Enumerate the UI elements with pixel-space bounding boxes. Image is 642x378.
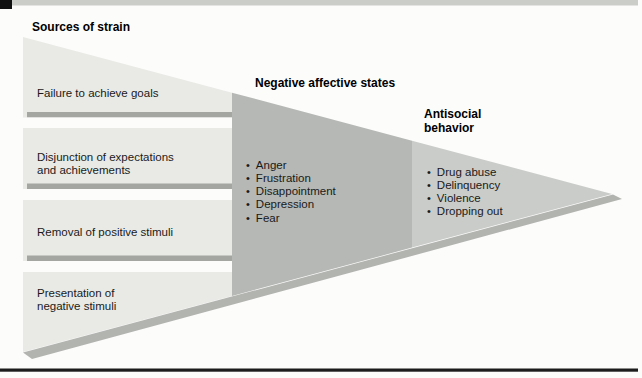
- bullet-icon: •: [246, 198, 250, 211]
- heading-line: Antisocial: [424, 108, 481, 122]
- list-item: • Drug abuse: [427, 166, 503, 179]
- strain-theory-figure: Sources of strain Negative affective sta…: [0, 0, 642, 378]
- box-separator-bar-1: [27, 112, 232, 118]
- label-line: negative stimuli: [37, 300, 116, 313]
- strain-box-removal-positive: Removal of positive stimuli: [37, 226, 173, 239]
- antisocial-behavior-heading: Antisocial behavior: [424, 108, 481, 135]
- list-item-label: Fear: [256, 212, 280, 225]
- bullet-icon: •: [246, 159, 250, 172]
- bullet-icon: •: [427, 205, 431, 218]
- list-item: • Violence: [427, 192, 503, 205]
- strain-box-failure-goals: Failure to achieve goals: [37, 87, 158, 100]
- box-separator-gap-3: [23, 261, 232, 272]
- box-separator-bar-2: [27, 184, 232, 190]
- bottom-rule: [0, 369, 638, 372]
- list-item-label: Dropping out: [437, 205, 503, 218]
- list-item: • Disappointment: [246, 185, 336, 198]
- list-item-label: Depression: [256, 198, 314, 211]
- list-item: • Frustration: [246, 172, 336, 185]
- list-item-label: Delinquency: [437, 179, 500, 192]
- label-line: Failure to achieve goals: [37, 87, 158, 100]
- bullet-icon: •: [427, 166, 431, 179]
- list-item-label: Drug abuse: [437, 166, 496, 179]
- top-rule-stripe: [0, 0, 638, 6]
- label-line: Removal of positive stimuli: [37, 226, 173, 239]
- label-line: Presentation of: [37, 287, 116, 300]
- label-line: and achievements: [37, 164, 174, 177]
- bullet-icon: •: [427, 179, 431, 192]
- strain-box-disjunction: Disjunction of expectations and achievem…: [37, 151, 174, 177]
- antisocial-behavior-list: • Drug abuse • Delinquency • Violence • …: [427, 166, 503, 219]
- list-item: • Delinquency: [427, 179, 503, 192]
- box-separator-bar-3: [27, 256, 232, 262]
- sources-of-strain-heading: Sources of strain: [32, 21, 130, 35]
- label-line: Disjunction of expectations: [37, 151, 174, 164]
- list-item: • Dropping out: [427, 205, 503, 218]
- box-separator-gap-2: [23, 189, 232, 200]
- top-corner-block: [0, 0, 12, 9]
- list-item: • Fear: [246, 212, 336, 225]
- bullet-icon: •: [246, 212, 250, 225]
- list-item: • Depression: [246, 198, 336, 211]
- list-item-label: Violence: [437, 192, 481, 205]
- box-separator-gap-1: [23, 118, 232, 129]
- strain-box-presentation-negative: Presentation of negative stimuli: [37, 287, 116, 313]
- list-item-label: Frustration: [256, 172, 311, 185]
- bullet-icon: •: [246, 172, 250, 185]
- bullet-icon: •: [246, 185, 250, 198]
- negative-states-list: • Anger • Frustration • Disappointment •…: [246, 159, 336, 225]
- list-item-label: Disappointment: [256, 185, 336, 198]
- negative-affective-states-heading: Negative affective states: [255, 77, 395, 91]
- heading-line: behavior: [424, 122, 481, 136]
- bullet-icon: •: [427, 192, 431, 205]
- list-item-label: Anger: [256, 159, 287, 172]
- list-item: • Anger: [246, 159, 336, 172]
